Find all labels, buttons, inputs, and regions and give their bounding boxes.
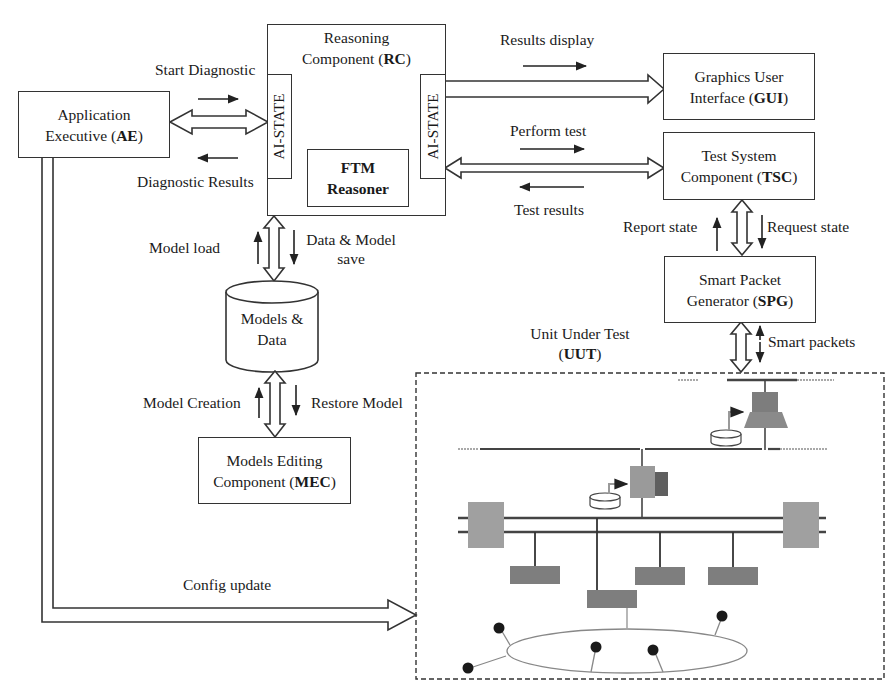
results-display-label: Results display bbox=[500, 30, 594, 49]
ftm-line2: Reasoner bbox=[327, 178, 389, 199]
db-mec-hollow-arrow bbox=[265, 371, 285, 437]
model-creation-label: Model Creation bbox=[143, 393, 241, 412]
model-load-label: Model load bbox=[149, 238, 220, 257]
report-state-label: Report state bbox=[623, 217, 697, 236]
data-model-save-label: Data & Model save bbox=[302, 230, 400, 268]
network-node-icon bbox=[463, 611, 728, 674]
gui-line2: Interface (GUI) bbox=[690, 87, 789, 108]
mec-line2: Component (MEC) bbox=[213, 471, 336, 492]
ae-line1: Application bbox=[57, 104, 130, 125]
diagnostic-results-label: Diagnostic Results bbox=[137, 172, 254, 191]
data-model-save-line2: save bbox=[302, 249, 400, 268]
ftm-reasoner-box: FTM Reasoner bbox=[307, 149, 409, 207]
ring-network bbox=[507, 629, 747, 673]
gui-line1: Graphics User bbox=[694, 66, 783, 87]
db-line2: Data bbox=[226, 329, 318, 350]
test-results-label: Test results bbox=[514, 200, 584, 219]
data-model-save-line1: Data & Model bbox=[302, 230, 400, 249]
rc-db-hollow-arrow bbox=[264, 216, 284, 281]
request-state-label: Request state bbox=[767, 217, 849, 236]
switch-icon bbox=[510, 566, 758, 608]
workstation-icon bbox=[744, 392, 788, 450]
rc-left-ai-state: AI-STATE bbox=[267, 74, 292, 179]
smart-packets-label: Smart packets bbox=[768, 332, 855, 351]
application-executive-box: Application Executive (AE) bbox=[18, 91, 170, 158]
ftm-line1: FTM bbox=[341, 157, 375, 178]
test-system-component-box: Test System Component (TSC) bbox=[663, 132, 815, 200]
smart-packet-generator-box: Smart Packet Generator (SPG) bbox=[664, 256, 816, 323]
uut-line1: Unit Under Test bbox=[510, 324, 650, 344]
graphics-user-interface-box: Graphics User Interface (GUI) bbox=[663, 53, 815, 120]
disk-icon bbox=[711, 430, 741, 446]
uut-line2: (UUT) bbox=[510, 344, 650, 364]
tower-computer-icon bbox=[468, 502, 504, 548]
tsc-spg-hollow-arrow bbox=[732, 200, 752, 255]
ae-rc-hollow-arrow bbox=[170, 110, 268, 134]
spg-uut-hollow-arrow bbox=[731, 322, 751, 372]
rc-line1: Reasoning bbox=[324, 27, 389, 48]
db-line1: Models & bbox=[226, 308, 318, 329]
tower-computer-icon bbox=[783, 502, 819, 548]
uut-network-illustration bbox=[458, 380, 834, 674]
rc-tsc-hollow-arrow bbox=[445, 158, 664, 178]
tsc-line2: Component (TSC) bbox=[681, 166, 798, 187]
models-data-label: Models & Data bbox=[226, 308, 318, 350]
models-editing-component-box: Models Editing Component (MEC) bbox=[198, 437, 351, 504]
spg-line2: Generator (SPG) bbox=[687, 290, 793, 311]
restore-model-label: Restore Model bbox=[311, 393, 403, 412]
disk-icon bbox=[590, 493, 620, 509]
rc-line2: Component (RC) bbox=[302, 48, 411, 69]
spg-line1: Smart Packet bbox=[699, 269, 781, 290]
rc-gui-hollow-arrow bbox=[445, 75, 664, 103]
config-update-label: Config update bbox=[183, 575, 271, 594]
uut-label: Unit Under Test (UUT) bbox=[510, 324, 650, 364]
server-icon bbox=[630, 466, 668, 518]
start-diagnostic-label: Start Diagnostic bbox=[155, 60, 255, 79]
ae-line2: Executive (AE) bbox=[45, 125, 143, 146]
rc-right-ai-state: AI-STATE bbox=[420, 74, 446, 179]
tsc-line1: Test System bbox=[701, 145, 776, 166]
perform-test-label: Perform test bbox=[510, 121, 586, 140]
mec-line1: Models Editing bbox=[226, 450, 322, 471]
